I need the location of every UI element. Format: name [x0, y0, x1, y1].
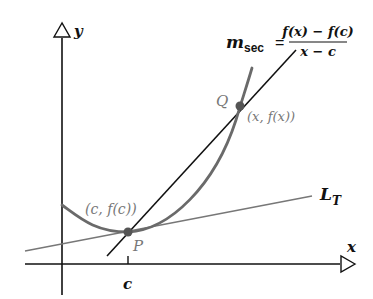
tangent-line-label: LT [319, 184, 342, 208]
x-axis-arrow-icon [341, 256, 355, 272]
point-Q-label: Q [216, 92, 228, 110]
axes [25, 23, 355, 295]
secant-slope-formula: msec = f(x) − f(c) x − c [226, 24, 354, 59]
secant-line [107, 50, 296, 256]
y-axis-label: y [73, 22, 84, 40]
tangent-line [25, 196, 312, 251]
diagram-canvas: y x c (c, f(c)) P Q (x, f(x)) LT msec = … [0, 0, 373, 299]
point-P-label: P [132, 237, 144, 255]
point-Q-coord-label: (x, f(x)) [247, 109, 295, 124]
x-axis-label: x [346, 238, 357, 256]
y-axis-arrow-icon [54, 23, 70, 37]
formula-denominator: x − c [299, 44, 336, 59]
formula-lhs: msec [226, 32, 264, 55]
formula-numerator: f(x) − f(c) [281, 24, 353, 39]
c-tick-label: c [123, 275, 132, 293]
point-P [124, 228, 133, 237]
point-P-coord-label: (c, f(c)) [85, 201, 137, 217]
point-Q [236, 102, 245, 111]
